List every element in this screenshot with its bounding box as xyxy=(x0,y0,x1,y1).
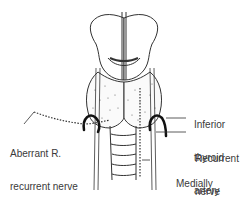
label-line: Aberrant R. xyxy=(10,148,78,159)
trachea xyxy=(110,126,136,180)
label-line: Inferior xyxy=(194,119,225,130)
label-line: Medially xyxy=(176,178,244,189)
label-aberrant-nerve: Aberrant R. recurrent nerve xyxy=(10,126,78,201)
label-medial-nerve: Medially placed recurrent nerve xyxy=(176,156,244,201)
label-line: recurrent nerve xyxy=(10,181,78,192)
thyroid-cartilage xyxy=(90,12,157,80)
